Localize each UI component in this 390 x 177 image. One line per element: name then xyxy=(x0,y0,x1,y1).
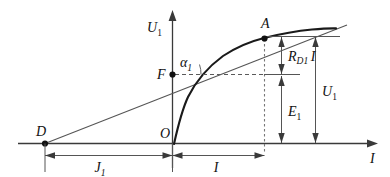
dimension-j1 xyxy=(45,152,173,158)
point-F xyxy=(169,71,175,77)
voltage-axis-label: U1 xyxy=(147,20,162,38)
alpha-angle-arc xyxy=(200,65,202,75)
alpha-angle-label: α1 xyxy=(180,55,192,73)
diagram-canvas: U1 I D O F A α1 J1 I RD1I E1 U1 xyxy=(0,0,390,177)
point-A xyxy=(261,35,267,41)
dimension-label-e1: E1 xyxy=(287,104,302,122)
dimension-label-rd1i: RD1I xyxy=(287,49,317,66)
current-axis xyxy=(18,140,378,148)
dimension-label-u1: U1 xyxy=(322,84,337,102)
dimension-e1 xyxy=(278,76,284,143)
current-axis-label: I xyxy=(369,151,376,166)
dimension-label-i: I xyxy=(213,160,220,175)
dimension-i xyxy=(173,152,265,158)
point-label-F: F xyxy=(156,67,166,82)
dimension-label-j1: J1 xyxy=(95,160,106,177)
point-label-O: O xyxy=(160,126,170,141)
dimension-rd1i xyxy=(278,37,284,74)
point-label-D: D xyxy=(35,124,46,139)
point-label-A: A xyxy=(260,16,270,31)
characteristic-curve xyxy=(174,28,336,144)
